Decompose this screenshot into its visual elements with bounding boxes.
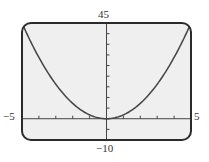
- plot-svg: [0, 0, 209, 162]
- x-min-label: −5: [3, 111, 15, 122]
- graphing-calculator-plot: 45 −10 −5 5: [0, 0, 209, 162]
- x-max-label: 5: [194, 111, 200, 122]
- y-min-label: −10: [96, 143, 113, 154]
- y-max-label: 45: [98, 9, 109, 20]
